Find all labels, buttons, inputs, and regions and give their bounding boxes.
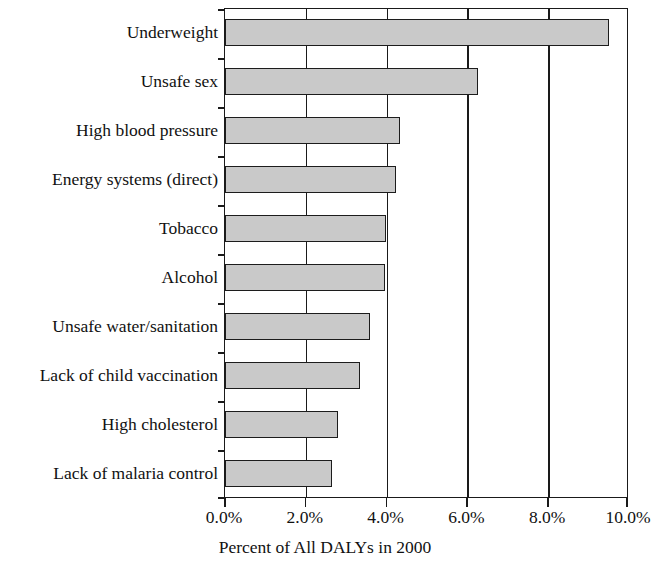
y-axis-tick bbox=[218, 254, 225, 256]
category-label-underweight: Underweight bbox=[0, 24, 218, 42]
y-axis-tick bbox=[218, 401, 225, 403]
x-axis-tick bbox=[305, 498, 307, 507]
y-axis-tick bbox=[218, 107, 225, 109]
y-axis-tick bbox=[218, 450, 225, 452]
x-axis-tick-label-2: 2.0% bbox=[265, 509, 345, 527]
category-label-high-cholesterol: High cholesterol bbox=[0, 416, 218, 434]
bar-unsafe-sex bbox=[225, 68, 478, 95]
category-label-alcohol: Alcohol bbox=[0, 269, 218, 287]
bar-energy-systems-direct bbox=[225, 166, 396, 193]
value-axis: 0.0% 2.0% 4.0% 6.0% 8.0% 10.0% Percent o… bbox=[224, 498, 628, 572]
plot-area bbox=[224, 8, 628, 498]
bar-lack-of-child-vaccination bbox=[225, 362, 360, 389]
gridline-8pct bbox=[548, 9, 549, 497]
bar-unsafe-water-sanitation bbox=[225, 313, 370, 340]
category-label-energy-systems-direct: Energy systems (direct) bbox=[0, 171, 218, 189]
category-label-unsafe-water-sanitation: Unsafe water/sanitation bbox=[0, 318, 218, 336]
y-axis-tick bbox=[218, 352, 225, 354]
bar-underweight bbox=[225, 19, 609, 46]
x-axis-tick-label-6: 6.0% bbox=[426, 509, 506, 527]
y-axis-tick bbox=[218, 156, 225, 158]
bar-lack-of-malaria-control bbox=[225, 460, 332, 487]
x-axis-title: Percent of All DALYs in 2000 bbox=[0, 539, 650, 557]
category-label-lack-of-child-vaccination: Lack of child vaccination bbox=[0, 367, 218, 385]
x-axis-tick bbox=[547, 498, 549, 507]
bar-tobacco bbox=[225, 215, 386, 242]
y-axis-tick bbox=[218, 58, 225, 60]
bar-high-cholesterol bbox=[225, 411, 338, 438]
x-axis-tick bbox=[386, 498, 388, 507]
category-axis: Underweight Unsafe sex High blood pressu… bbox=[0, 8, 218, 498]
category-label-high-blood-pressure: High blood pressure bbox=[0, 122, 218, 140]
category-label-tobacco: Tobacco bbox=[0, 220, 218, 238]
bar-alcohol bbox=[225, 264, 385, 291]
y-axis-tick bbox=[218, 9, 225, 11]
category-label-unsafe-sex: Unsafe sex bbox=[0, 73, 218, 91]
x-axis-tick-label-10: 10.0% bbox=[585, 509, 655, 527]
x-axis-tick-label-0: 0.0% bbox=[184, 509, 264, 527]
x-axis-tick bbox=[466, 498, 468, 507]
x-axis-tick-label-4: 4.0% bbox=[346, 509, 426, 527]
x-axis-tick-label-8: 8.0% bbox=[507, 509, 587, 527]
category-label-lack-of-malaria-control: Lack of malaria control bbox=[0, 465, 218, 483]
y-axis-tick bbox=[218, 303, 225, 305]
x-axis-tick bbox=[626, 498, 628, 507]
x-axis-tick bbox=[224, 498, 226, 507]
y-axis-tick bbox=[218, 205, 225, 207]
bar-high-blood-pressure bbox=[225, 117, 400, 144]
